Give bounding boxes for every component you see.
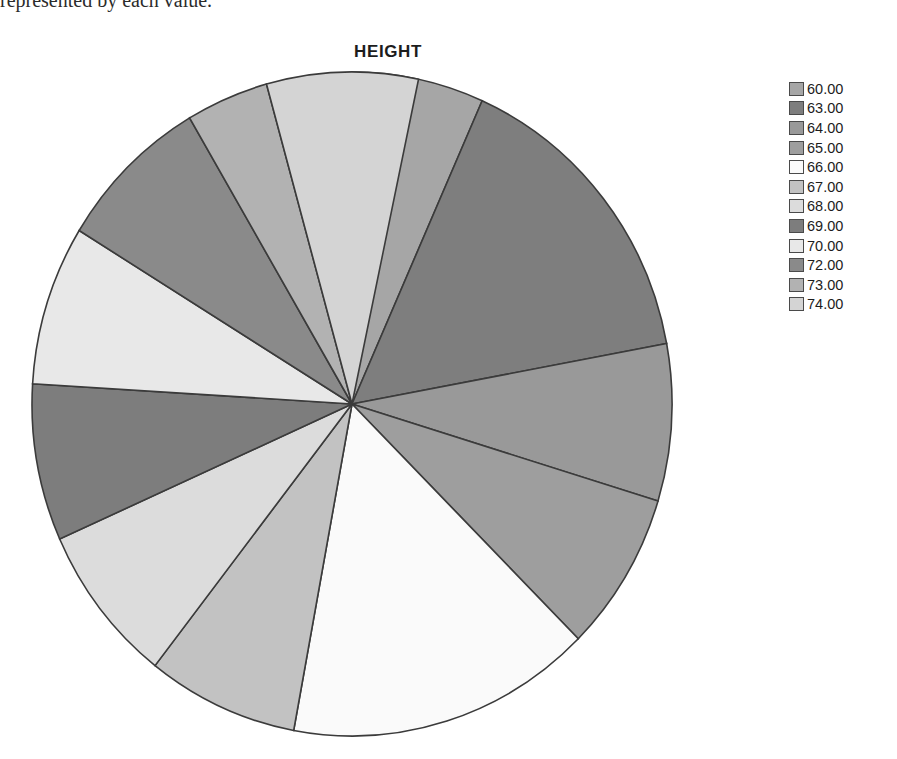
- legend-item[interactable]: 72.00: [789, 255, 889, 275]
- legend-color-swatch: [789, 121, 804, 135]
- chart-title: HEIGHT: [288, 42, 488, 62]
- legend-item[interactable]: 65.00: [789, 138, 889, 158]
- legend-item[interactable]: 74.00: [789, 295, 889, 315]
- legend-item-label: 60.00: [807, 81, 843, 97]
- legend-item[interactable]: 67.00: [789, 177, 889, 197]
- legend-item[interactable]: 66.00: [789, 157, 889, 177]
- legend-item-label: 68.00: [807, 198, 843, 214]
- legend-item-label: 64.00: [807, 120, 843, 136]
- legend-item-label: 67.00: [807, 179, 843, 195]
- legend-color-swatch: [789, 141, 804, 155]
- legend-item-label: 72.00: [807, 257, 843, 273]
- legend-color-swatch: [789, 101, 804, 115]
- legend-color-swatch: [789, 258, 804, 272]
- legend-item[interactable]: 73.00: [789, 275, 889, 295]
- legend-item[interactable]: 63.00: [789, 99, 889, 119]
- legend-item[interactable]: 69.00: [789, 216, 889, 236]
- legend-color-swatch: [789, 199, 804, 213]
- legend-item-label: 74.00: [807, 296, 843, 312]
- legend-color-swatch: [789, 219, 804, 233]
- legend-item-label: 63.00: [807, 100, 843, 116]
- legend-color-swatch: [789, 297, 804, 311]
- legend-color-swatch: [789, 278, 804, 292]
- legend-item[interactable]: 68.00: [789, 197, 889, 217]
- legend-item[interactable]: 70.00: [789, 236, 889, 256]
- legend-item-label: 66.00: [807, 159, 843, 175]
- legend: 60.0063.0064.0065.0066.0067.0068.0069.00…: [789, 79, 889, 314]
- legend-item[interactable]: 64.00: [789, 118, 889, 138]
- pie-slice-group: [32, 72, 672, 736]
- legend-item-label: 70.00: [807, 238, 843, 254]
- legend-color-swatch: [789, 82, 804, 96]
- legend-item-label: 73.00: [807, 277, 843, 293]
- legend-color-swatch: [789, 239, 804, 253]
- legend-color-swatch: [789, 160, 804, 174]
- legend-item-label: 65.00: [807, 140, 843, 156]
- legend-color-swatch: [789, 180, 804, 194]
- pie-chart-svg: [22, 62, 684, 748]
- legend-item-label: 69.00: [807, 218, 843, 234]
- pie-chart-area: [22, 62, 684, 748]
- legend-item[interactable]: 60.00: [789, 79, 889, 99]
- caption-text-fragment: represented by each value.: [0, 0, 420, 12]
